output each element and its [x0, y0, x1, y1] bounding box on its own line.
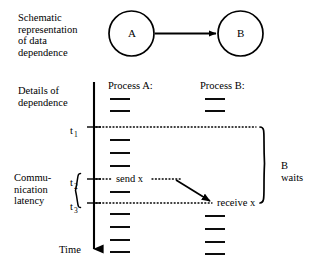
communication-latency-label: Commu- nication latency	[14, 172, 74, 207]
tick-label-t2: t2	[70, 172, 77, 190]
message-arrow-icon	[176, 180, 210, 201]
b-waits-brace-icon	[260, 127, 265, 203]
details-of-dependence-label: Details of dependence	[18, 85, 98, 108]
tick-label-t3: t3	[70, 196, 77, 214]
tick-label-t3-sub: 3	[74, 206, 78, 215]
tick-label-t1-sub: 1	[74, 130, 78, 139]
time-axis-label: Time	[59, 244, 81, 256]
receive-event-label: receive x	[215, 197, 257, 209]
schematic-representation-label: Schematic representation of data depende…	[18, 12, 98, 58]
tick-label-t1: t1	[70, 120, 77, 138]
process-a-header: Process A:	[108, 80, 153, 92]
diagram-canvas: Schematic representation of data depende…	[0, 0, 314, 279]
tick-label-t3-base: t	[70, 201, 73, 212]
process-b-header: Process B:	[200, 80, 245, 92]
node-b-label: B	[237, 28, 244, 40]
b-waits-label: B waits	[281, 160, 311, 183]
tick-label-t2-base: t	[70, 177, 73, 188]
tick-label-t1-base: t	[70, 125, 73, 136]
process-b-activity-marks	[205, 99, 225, 254]
node-a-label: A	[128, 28, 136, 40]
send-event-label: send x	[114, 173, 145, 185]
tick-label-t2-sub: 2	[74, 182, 78, 191]
